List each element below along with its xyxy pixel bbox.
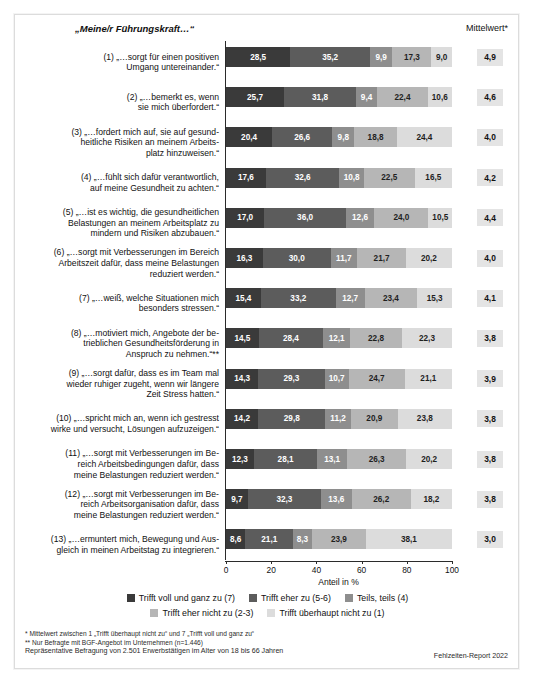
row-label: (1) „…sorgt für einen positivenUmgang un… (23, 52, 219, 73)
bar-segment: 18,8 (354, 127, 396, 147)
bar-segment: 28,1 (254, 449, 318, 469)
row-label: (12) „…sorgt mit Verbesserungen im Be-re… (23, 489, 219, 521)
legend-label: Trifft eher nicht zu (2-3) (162, 608, 253, 618)
axis-tick (226, 561, 227, 564)
bar-segment: 20,2 (406, 449, 452, 469)
axis-tick (407, 561, 408, 564)
figure-panel: „Meine/r Führungskraft…“ Mittelwert* (1)… (14, 14, 519, 669)
bar-segment: 10,7 (325, 369, 349, 389)
axis-tick-label: 60 (357, 565, 366, 575)
bar-segment: 10,8 (339, 168, 363, 188)
stacked-bar: 8,621,18,323,938,1 (226, 529, 452, 549)
row-label-line: mindern und Risiken abzubauen.“ (23, 228, 219, 239)
stacked-bar: 16,330,011,721,720,2 (226, 248, 452, 268)
row-label-line: heitliche Risiken an meinem Arbeits- (23, 137, 219, 148)
bar-segment: 17,6 (226, 168, 266, 188)
mean-value: 4,6 (477, 89, 503, 106)
stacked-bar: 20,426,69,818,824,4 (226, 127, 452, 147)
bar-segment: 23,4 (365, 288, 418, 308)
legend-row-first: Trifft voll und ganz zu (7)Trifft eher z… (15, 593, 520, 603)
mean-value: 3,0 (477, 531, 503, 548)
bar-segment: 23,8 (398, 409, 452, 429)
bar-segment: 20,9 (351, 409, 398, 429)
bar-segment: 12,3 (226, 449, 254, 469)
legend-item[interactable]: Trifft überhaupt nicht zu (1) (267, 608, 384, 618)
bar-segment: 32,6 (266, 168, 340, 188)
bar-segment: 23,9 (312, 529, 366, 549)
table-row: (7) „…weiß, welche Situationen michbeson… (15, 282, 520, 322)
footnote-mittelwert: * Mittelwert zwischen 1 „Trifft überhaup… (25, 629, 510, 638)
x-axis-title: Anteil in % (225, 577, 452, 587)
axis-tick (271, 561, 272, 564)
stacked-bar: 9,732,313,626,218,2 (226, 489, 452, 509)
bar-segment: 29,3 (258, 369, 324, 389)
table-row: (12) „…sorgt mit Verbesserungen im Be-re… (15, 483, 520, 523)
row-label: (9) „…sorgt dafür, dass es im Team malwi… (23, 368, 219, 400)
legend-row-second: Trifft eher nicht zu (2-3)Trifft überhau… (15, 608, 520, 618)
mean-value: 4,0 (477, 250, 503, 267)
stacked-bar: 12,328,113,126,320,2 (226, 449, 452, 469)
row-label-line: (12) „…sorgt mit Verbesserungen im Be- (23, 489, 219, 500)
axis-tick-label: 100 (445, 565, 459, 575)
bar-segment: 13,6 (321, 489, 352, 509)
bar-segment: 15,3 (417, 288, 452, 308)
legend-item[interactable]: Trifft eher zu (5-6) (249, 593, 331, 603)
row-label-line: Arbeitszeit dafür, dass meine Belastunge… (23, 258, 219, 269)
bar-segment: 12,6 (346, 208, 374, 228)
legend-item[interactable]: Trifft eher nicht zu (2-3) (150, 608, 253, 618)
bar-segment: 16,3 (226, 248, 263, 268)
page-title: „Meine/r Führungskraft…“ (75, 23, 194, 34)
row-label-line: Zeit Stress hatten.“ (23, 389, 219, 400)
row-label-line: (4) „…fühlt sich dafür verantwortlich, (23, 172, 219, 183)
mean-value: 4,1 (477, 290, 503, 307)
row-label-line: (2) „…bemerkt es, wenn (23, 92, 219, 103)
bar-segment: 26,3 (347, 449, 406, 469)
bar-segment: 22,4 (377, 87, 428, 107)
row-label-line: besonders stressen.“ (23, 303, 219, 314)
axis-tick (452, 561, 453, 564)
bar-segment: 29,8 (258, 409, 325, 429)
row-label-line: meine Belastungen reduziert werden.“ (23, 510, 219, 521)
bar-segment: 11,2 (325, 409, 350, 429)
bar-segment: 9,7 (226, 489, 248, 509)
mean-value: 4,2 (477, 169, 503, 186)
bar-segment: 16,5 (415, 168, 452, 188)
bar-segment: 38,1 (366, 529, 452, 549)
legend-item[interactable]: Teils, teils (4) (345, 593, 408, 603)
stacked-bar: 14,528,412,122,822,3 (226, 328, 452, 348)
row-label-line: (1) „…sorgt für einen positiven (23, 52, 219, 63)
axis-tick-label: 0 (224, 565, 229, 575)
plot-area: (1) „…sorgt für einen positivenUmgang un… (15, 41, 520, 561)
bar-segment: 20,4 (226, 127, 272, 147)
mean-value: 4,9 (477, 49, 503, 66)
row-label-line: (7) „…weiß, welche Situationen mich (23, 293, 219, 304)
legend-swatch-icon (249, 594, 257, 602)
bar-segment: 26,2 (352, 489, 411, 509)
row-label-line: (5) „…ist es wichtig, die gesundheitlich… (23, 207, 219, 218)
axis-tick-label: 20 (267, 565, 276, 575)
bar-segment: 15,4 (226, 288, 261, 308)
legend-item[interactable]: Trifft voll und ganz zu (7) (127, 593, 235, 603)
row-label-line: reich Arbeitsbedingungen dafür, dass (23, 459, 219, 470)
row-label: (7) „…weiß, welche Situationen michbeson… (23, 293, 219, 314)
row-label: (13) „…ermuntert mich, Bewegung und Aus-… (23, 534, 219, 555)
mean-value: 3,8 (477, 491, 503, 508)
axis-tick (362, 561, 363, 564)
bar-segment: 24,4 (397, 127, 452, 147)
bar-segment: 12,1 (323, 328, 350, 348)
row-label: (10) „…spricht mich an, wenn ich gestres… (23, 413, 219, 434)
bar-segment: 21,1 (405, 369, 453, 389)
bar-segment: 9,0 (431, 47, 451, 67)
axis-tick (316, 561, 317, 564)
bar-segment: 14,3 (226, 369, 258, 389)
legend-swatch-icon (127, 594, 135, 602)
bar-segment: 10,6 (428, 87, 452, 107)
row-label-line: meine Belastungen reduziert werden.“ (23, 470, 219, 481)
bar-segment: 21,7 (357, 248, 406, 268)
row-label-line: reduziert werden.“ (23, 269, 219, 280)
mean-value: 3,8 (477, 451, 503, 468)
bar-segment: 9,4 (356, 87, 377, 107)
x-axis: 020406080100 Anteil in % (15, 561, 520, 591)
source-label: Fehlzeiten-Report 2022 (434, 652, 508, 660)
table-row: (9) „…sorgt dafür, dass es im Team malwi… (15, 363, 520, 403)
